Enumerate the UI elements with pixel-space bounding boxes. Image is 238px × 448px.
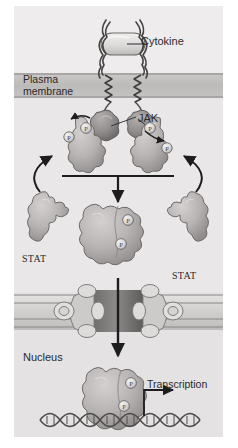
label-cytokine: Cytokine	[141, 35, 184, 47]
svg-text:P: P	[148, 125, 152, 132]
svg-text:P: P	[129, 380, 133, 387]
jak-stat-pathway-figure: P P P P	[14, 6, 223, 437]
phosphate-group: P	[162, 143, 172, 153]
svg-text:P: P	[165, 145, 169, 152]
phosphate-group: P	[119, 401, 130, 412]
phosphate-group: P	[116, 239, 127, 250]
svg-text:P: P	[67, 134, 71, 141]
phosphate-group: P	[64, 132, 74, 142]
label-plasma-membrane: Plasma membrane	[23, 74, 73, 98]
stat-dimer-cytosolic	[79, 204, 143, 265]
label-jak: JAK	[138, 112, 158, 124]
svg-text:P: P	[119, 241, 123, 248]
svg-text:P: P	[122, 403, 126, 410]
cytokine-molecule	[101, 33, 145, 55]
receptor-transmembrane-domains	[105, 75, 141, 102]
diagram-canvas: P P P P	[0, 0, 238, 448]
phosphate-group: P	[123, 215, 134, 226]
dimerization-junction-arrow	[62, 176, 174, 202]
phosphate-group: P	[126, 378, 137, 389]
label-stat-left: STAT	[22, 253, 46, 264]
stat-free-left	[28, 192, 69, 242]
svg-text:P: P	[126, 217, 130, 224]
phosphate-group: P	[81, 123, 92, 134]
svg-text:P: P	[84, 125, 88, 132]
label-transcription: Transcription	[147, 379, 207, 391]
transcription-arrow	[144, 390, 173, 416]
pathway-artwork: P P P P	[14, 6, 223, 437]
label-stat-right: STAT	[172, 270, 196, 281]
stat-free-right	[167, 192, 208, 242]
label-nucleus: Nucleus	[23, 351, 63, 363]
